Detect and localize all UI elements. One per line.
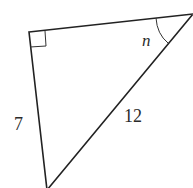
side-label-left: 7	[14, 114, 23, 134]
angle-arc-n	[156, 18, 168, 43]
right-angle-marker	[30, 31, 46, 47]
side-label-hypotenuse: 12	[124, 106, 142, 126]
angle-label-n: n	[142, 31, 151, 50]
triangle	[29, 14, 193, 188]
triangle-diagram: n 7 12	[0, 0, 193, 188]
